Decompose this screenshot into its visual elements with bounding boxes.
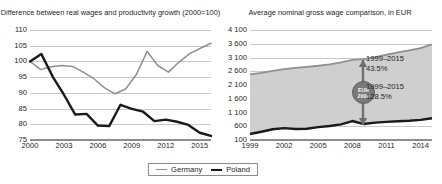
x-tick: 2006 xyxy=(89,142,106,150)
y-tick: 80 xyxy=(19,120,27,128)
series-lines-left xyxy=(30,30,211,140)
x-tick: 2002 xyxy=(276,142,293,150)
line-swatch-poland-icon xyxy=(211,169,222,171)
series-area-right xyxy=(250,30,432,140)
annotation-germany-value: 43.5% xyxy=(366,64,404,74)
y-tick: 100 xyxy=(14,58,27,66)
legend-label-poland: Poland xyxy=(226,166,250,174)
plot-area-left xyxy=(30,30,211,140)
x-axis-labels-right: 1999 2002 2005 2008 2011 2014 xyxy=(250,142,432,156)
legend: Germany Poland xyxy=(148,163,258,176)
legend-item-poland: Poland xyxy=(211,166,250,174)
y-tick: 95 xyxy=(19,73,27,81)
x-tick: 2012 xyxy=(157,142,174,150)
x-axis-labels-left: 2000 2003 2006 2009 2012 2015 xyxy=(30,142,211,156)
x-tick: 2008 xyxy=(344,142,361,150)
y-tick: 1 100 xyxy=(228,109,247,117)
y-tick: 110 xyxy=(15,26,27,34)
x-tick: 1999 xyxy=(242,142,259,150)
y-tick: 2 600 xyxy=(228,67,247,75)
chart-title-left: Difference between real wages and produc… xyxy=(0,8,221,19)
y-axis-labels-left: 110 105 100 95 90 85 80 75 xyxy=(0,30,27,140)
y-tick: 85 xyxy=(19,105,27,113)
annotation-poland-value: 128.5% xyxy=(366,92,404,102)
x-tick: 2005 xyxy=(310,142,327,150)
y-tick: 3 100 xyxy=(228,54,247,62)
y-tick: 3 600 xyxy=(228,40,247,48)
y-tick: 4 100 xyxy=(228,26,247,34)
x-tick: 2000 xyxy=(22,142,39,150)
wage-comparison-figure: Difference between real wages and produc… xyxy=(0,0,442,184)
legend-label-germany: Germany xyxy=(171,166,202,174)
y-tick: 105 xyxy=(14,42,27,50)
chart-title-right: Average nominal gross wage comparison, i… xyxy=(218,8,442,19)
y-tick: 600 xyxy=(234,122,247,130)
y-axis-labels-right: 4 100 3 600 3 100 2 600 2 100 1 600 1 10… xyxy=(214,30,247,140)
x-tick: 2015 xyxy=(191,142,208,150)
y-tick: 2 100 xyxy=(228,81,247,89)
annotation-poland-period: 1999–2015 xyxy=(366,82,404,92)
y-tick: 1 600 xyxy=(228,95,247,103)
x-tick: 2003 xyxy=(55,142,72,150)
annotation-germany-period: 1999–2015 xyxy=(366,54,404,64)
plot-area-right xyxy=(250,30,432,140)
x-tick: 2009 xyxy=(123,142,140,150)
annotation-poland-growth: 1999–2015 128.5% xyxy=(366,82,404,102)
y-tick: 90 xyxy=(19,89,27,97)
line-swatch-germany-icon xyxy=(156,169,167,170)
x-tick: 2014 xyxy=(412,142,429,150)
legend-item-germany: Germany xyxy=(156,166,202,174)
x-tick: 2011 xyxy=(378,142,394,150)
annotation-germany-growth: 1999–2015 43.5% xyxy=(366,54,404,74)
